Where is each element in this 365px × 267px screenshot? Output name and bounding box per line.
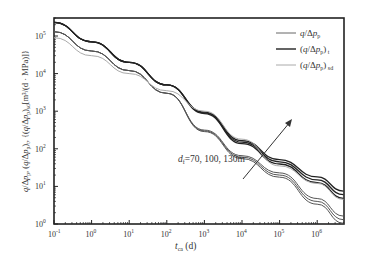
x-tick-label: 103 [198,228,209,239]
y-tick-label: 100 [35,218,46,229]
y-tick-label: 103 [35,105,46,116]
x-tick-label: 102 [161,228,172,239]
x-tick-label: 101 [123,228,134,239]
legend-qdp-t: (q/Δpp) t [300,44,330,55]
legend-qdp: q/Δpp [300,28,320,39]
y-tick-label: 102 [35,143,46,154]
x-tick-label: 105 [274,228,285,239]
y-tick-label: 101 [35,180,46,191]
x-tick-label: 10-1 [48,228,61,239]
legend: q/Δpp (q/Δpp) t (q/Δpp) sd [276,28,333,71]
y-tick-label: 104 [35,68,46,79]
x-tick-label: 100 [86,228,97,239]
x-axis-ticks: 10-1100101102103104105106 [48,220,343,239]
legend-qdp-sd: (q/Δpp) sd [300,60,333,71]
log-log-chart: 10-1100101102103104105106 10010110210310… [0,0,365,267]
annotation-df: df=70, 100, 130m [178,154,246,165]
x-axis-title: tca (d) [175,241,196,252]
y-axis-title: q/Δpp, (q/Δpp)t, {(q/Δpp)sd[m³/(d · MPa)… [20,50,31,192]
x-tick-label: 106 [311,228,322,239]
x-tick-label: 104 [236,228,247,239]
y-tick-label: 105 [35,30,46,41]
